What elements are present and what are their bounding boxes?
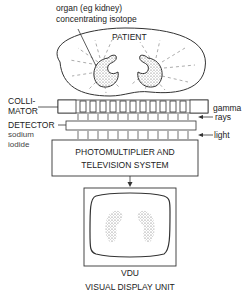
organ-label-1: organ (eg kidney): [56, 3, 122, 13]
detector-sub-1: sodium: [8, 130, 34, 140]
kidney-right: [138, 55, 162, 87]
radiation-lines: [70, 40, 195, 93]
vdu-screen: [90, 193, 170, 257]
organ-label-2: concentrating isotope: [56, 14, 137, 24]
vdu-full-label: VISUAL DISPLAY UNIT: [60, 282, 200, 292]
light-label: light: [214, 130, 230, 140]
gamma-label-2: rays: [215, 112, 231, 122]
collimator-label-1: COLLI-: [8, 96, 35, 106]
detector-crystal: [66, 121, 196, 130]
collimator-label-2: MATOR: [8, 106, 38, 116]
photomultiplier-label-1: PHOTOMULTIPLIER AND: [52, 147, 198, 157]
gamma-arrows: [78, 114, 188, 120]
photomultiplier-box: [52, 140, 198, 176]
kidney-left: [94, 55, 118, 87]
vdu-label: VDU: [84, 268, 176, 278]
light-arrows: [78, 131, 188, 139]
patient-label: PATIENT: [112, 32, 147, 42]
detector-sub-2: iodide: [8, 140, 29, 150]
photomultiplier-label-2: TELEVISION SYSTEM: [52, 160, 198, 170]
detector-label: DETECTOR: [8, 120, 55, 130]
collimator: [58, 100, 208, 113]
